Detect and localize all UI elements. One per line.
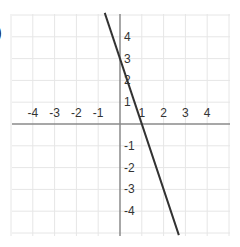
x-tick-label: 3 bbox=[182, 106, 189, 120]
y-tick-label: -1 bbox=[124, 139, 135, 153]
x-tick-labels: -4-3-2-11234 bbox=[27, 106, 210, 120]
x-tick-label: -1 bbox=[93, 106, 104, 120]
y-tick-label: -2 bbox=[124, 161, 135, 175]
x-tick-label: 2 bbox=[160, 106, 167, 120]
y-tick-label: 1 bbox=[124, 95, 131, 109]
y-tick-label: 4 bbox=[124, 30, 131, 44]
x-tick-label: -4 bbox=[27, 106, 38, 120]
x-tick-label: 4 bbox=[204, 106, 211, 120]
x-tick-label: -2 bbox=[71, 106, 82, 120]
partial-label: ) bbox=[0, 22, 2, 42]
y-tick-label: -3 bbox=[124, 182, 135, 196]
coordinate-plane: ) -4-3-2-11234 4321-1-2-3-4 bbox=[0, 0, 240, 247]
x-tick-label: -3 bbox=[49, 106, 60, 120]
y-tick-label: 3 bbox=[124, 52, 131, 66]
y-tick-label: -4 bbox=[124, 204, 135, 218]
